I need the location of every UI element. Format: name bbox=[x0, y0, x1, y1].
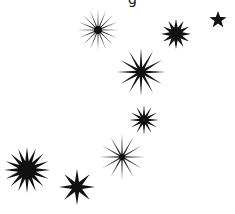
star-bottom-left-large-icon bbox=[4, 147, 50, 193]
star-bottom-eight-icon bbox=[59, 169, 95, 205]
star-field bbox=[0, 0, 235, 214]
star-middle-medium-icon bbox=[129, 105, 159, 135]
star-corner-small-icon bbox=[209, 11, 226, 27]
sparkle-lower-icon bbox=[99, 134, 145, 180]
star-top-right-medium-icon bbox=[161, 19, 191, 49]
sparkle-top-icon bbox=[77, 9, 119, 51]
star-middle-large-icon bbox=[117, 48, 165, 96]
